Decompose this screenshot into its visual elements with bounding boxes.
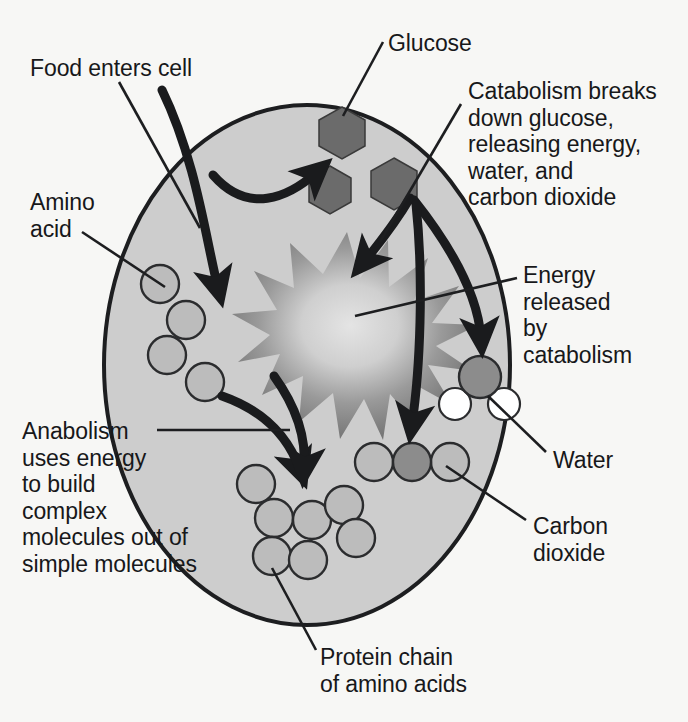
oxygen-atom (355, 443, 393, 481)
label-protein-chain-of-amino-acids: Protein chain of amino acids (320, 644, 467, 697)
carbon-atom (393, 443, 431, 481)
label-amino-acid: Amino acid (30, 189, 95, 242)
amino-acid-circle (148, 336, 186, 374)
label-food-enters-cell: Food enters cell (30, 55, 192, 82)
label-anabolism-description: Anabolism uses energy to build complex m… (22, 418, 197, 577)
diagram-canvas: Food enters cell Glucose Catabolism brea… (0, 0, 688, 722)
label-carbon-dioxide: Carbon dioxide (533, 513, 608, 566)
leader-glucose (343, 42, 383, 116)
label-water: Water (553, 447, 613, 474)
protein-chain-circle (237, 465, 275, 503)
carbon-dioxide-molecule (355, 443, 469, 481)
oxygen-atom (459, 356, 501, 398)
label-energy-released-by-catabolism: Energy released by catabolism (523, 262, 632, 368)
protein-chain-circle (255, 499, 293, 537)
amino-acid-circle (167, 301, 205, 339)
label-glucose: Glucose (388, 30, 472, 57)
label-catabolism-description: Catabolism breaks down glucose, releasin… (468, 78, 657, 211)
oxygen-atom (431, 443, 469, 481)
protein-chain-circle (289, 541, 327, 579)
protein-chain-circle (337, 519, 375, 557)
